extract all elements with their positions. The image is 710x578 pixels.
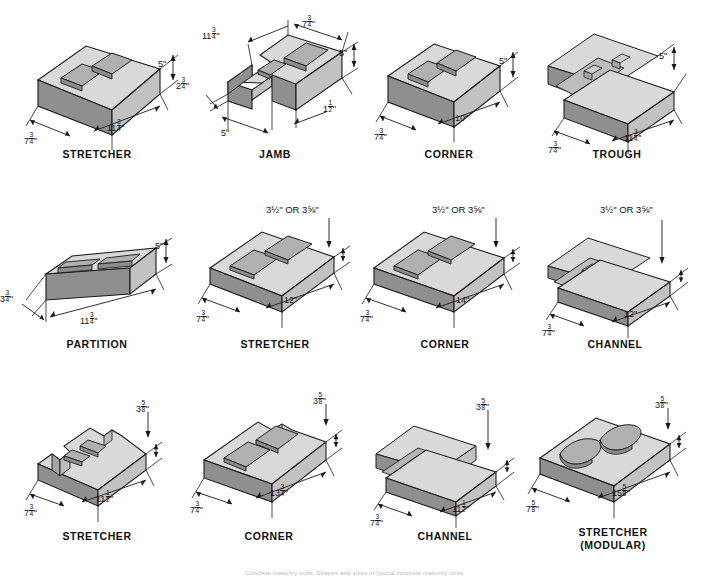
isometric-block-trough: 5" 734" 1134" <box>528 14 706 149</box>
dim-r1c1-height: 5" <box>158 60 166 69</box>
dim-r2c3-length: 14" <box>456 296 469 305</box>
dim-r1c1-width: 734" <box>24 132 37 146</box>
dim-r2c3-height: 3½" OR 3⅝" <box>432 205 485 215</box>
dim-r1c3-length: 10" <box>455 114 468 123</box>
dim-r1c2-jamb-slot: 112" <box>323 100 336 114</box>
dim-r3c4-length: 1558" <box>612 484 630 498</box>
block-sublabel-r3c4: (MODULAR) <box>524 539 702 552</box>
dim-r3c4-width: 758" <box>526 500 539 514</box>
block-label-r2c3: CORNER <box>356 338 534 351</box>
block-label-r1c4: TROUGH <box>528 148 706 161</box>
block-label-r1c3: CORNER <box>360 148 538 161</box>
isometric-block-channel-low: 3½" OR 3⅝" 734" 12" <box>526 204 704 339</box>
dim-r1c2-notch-width: 5" <box>221 129 229 138</box>
dim-r2c2-height: 3½" OR 3⅝" <box>266 205 319 215</box>
isometric-block-channel-flat: 358" 734" 1112" <box>356 396 534 531</box>
block-label-r2c2: STRETCHER <box>186 338 364 351</box>
dim-r3c4-height: 358" <box>655 396 668 410</box>
dim-r2c1-height: 5" <box>155 242 163 251</box>
dim-r3c2-length: 1334" <box>270 484 288 498</box>
figure-caption: Concrete masonry units. Shapes and sizes… <box>0 570 710 576</box>
dim-r1c3-height: 5" <box>499 57 507 66</box>
dim-r1c2-height: 5" <box>339 49 347 58</box>
isometric-block-stretcher-modular: 358" 758" 1558" <box>524 396 702 531</box>
dim-r2c4-height: 3½" OR 3⅝" <box>600 205 653 215</box>
dim-r3c3-width: 734" <box>370 514 383 528</box>
dim-r2c1-width: 334" <box>0 290 13 304</box>
block-label-r3c1: STRETCHER <box>8 530 186 543</box>
dim-r3c1-length: 1112" <box>96 490 113 504</box>
dim-r2c3-width: 734" <box>360 310 373 324</box>
dim-r3c1-width: 734" <box>24 504 37 518</box>
dim-r2c4-width: 734" <box>542 324 555 338</box>
isometric-block-stretcher-low: 3½" OR 3⅝" 734" 12" <box>186 204 364 339</box>
dim-r2c4-length: 12" <box>624 310 637 319</box>
dim-r2c2-width: 734" <box>196 310 209 324</box>
isometric-block-stretcher-notched: 358" 734" 1112" <box>8 396 186 531</box>
dim-r1c4-height: 5" <box>659 52 667 61</box>
dim-r3c3-height: 358" <box>476 398 489 412</box>
isometric-block-jamb: 1134" 734" 5" 234" 5" 112" <box>186 14 364 149</box>
dim-r1c2-length: 1134" <box>202 27 219 41</box>
isometric-block-stretcher: 5" 734" 1134" <box>8 14 186 149</box>
isometric-block-partition: 5" 334" 1134" <box>8 204 186 339</box>
dim-r1c1-length: 1134" <box>107 119 124 133</box>
block-label-r1c2: JAMB <box>186 148 364 161</box>
isometric-block-corner-low: 3½" OR 3⅝" 734" 14" <box>356 204 534 339</box>
dim-r3c2-width: 734" <box>190 501 203 515</box>
dim-r2c1-length: 1134" <box>80 312 97 326</box>
dim-r3c1-height: 358" <box>136 400 149 414</box>
dim-r1c3-width: 734" <box>374 128 387 142</box>
block-label-r3c4: STRETCHER (MODULAR) <box>524 526 702 551</box>
block-label-r1c1: STRETCHER <box>8 148 186 161</box>
block-label-r3c2: CORNER <box>180 530 358 543</box>
dim-r3c3-length: 1112" <box>452 500 469 514</box>
dim-r1c2-depth: 734" <box>302 15 315 29</box>
block-label-r2c4: CHANNEL <box>526 338 704 351</box>
block-label-r2c1: PARTITION <box>8 338 186 351</box>
dim-r3c2-height: 358" <box>313 392 326 406</box>
isometric-block-corner-notched: 358" 734" 1334" <box>180 396 358 531</box>
isometric-block-corner: 5" 734" 10" <box>360 14 538 149</box>
masonry-units-diagram: 5" 734" 1134" STRETCHER <box>0 0 710 578</box>
dim-r1c4-length: 1134" <box>624 129 641 143</box>
block-label-r3c3: CHANNEL <box>356 530 534 543</box>
dim-r1c2-notch-depth: 234" <box>176 77 189 91</box>
dim-r2c2-length: 12" <box>284 296 297 305</box>
